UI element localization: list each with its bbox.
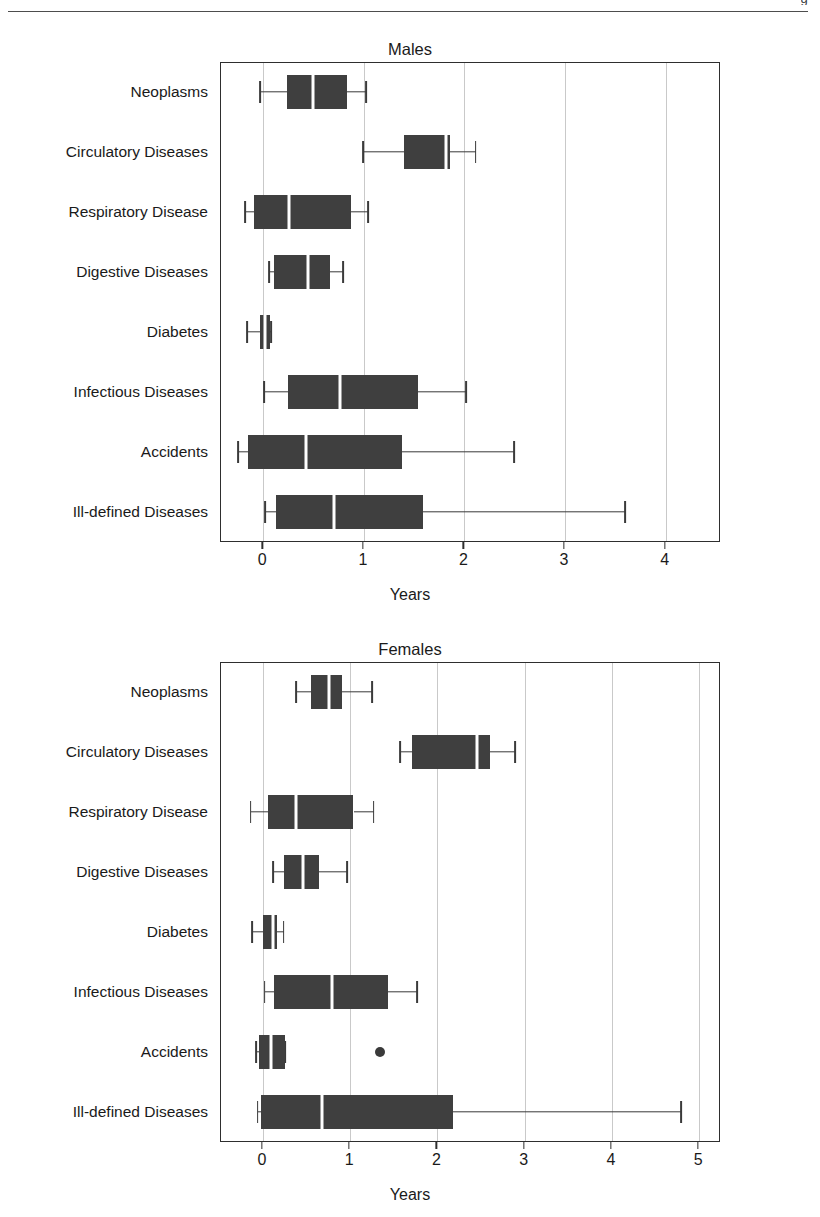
whisker-cap-high — [283, 921, 285, 943]
gridline-x-0 — [263, 663, 264, 1141]
median-line — [301, 855, 304, 889]
median-line — [476, 735, 479, 769]
whisker-line-high — [319, 871, 348, 872]
category-label: Circulatory Diseases — [66, 743, 208, 761]
x-tick-label: 0 — [257, 1151, 266, 1169]
box-iqr — [261, 1095, 453, 1129]
chart-panel-females: Females NeoplasmsCirculatory DiseasesRes… — [0, 0, 820, 1217]
x-tick-mark — [610, 1142, 611, 1149]
median-line — [328, 675, 331, 709]
x-tick-mark — [348, 1142, 349, 1149]
x-axis-title: Years — [0, 1186, 820, 1204]
x-tick-mark — [523, 1142, 524, 1149]
whisker-cap-low — [264, 981, 266, 1003]
figure-page: g Males NeoplasmsCirculatory DiseasesRes… — [0, 0, 820, 1217]
median-line — [272, 915, 275, 949]
chart-title-females: Females — [0, 640, 820, 659]
x-tick-mark — [261, 1142, 262, 1149]
whisker-line-low — [296, 691, 311, 692]
median-line — [330, 975, 333, 1009]
category-label: Respiratory Disease — [68, 803, 208, 821]
category-label: Digestive Diseases — [76, 863, 208, 881]
median-line — [269, 1035, 272, 1069]
x-tick-label: 4 — [606, 1151, 615, 1169]
box-iqr — [268, 795, 354, 829]
x-tick-label: 2 — [432, 1151, 441, 1169]
category-label: Accidents — [141, 1043, 208, 1061]
whisker-line-high — [342, 691, 372, 692]
whisker-line-low — [400, 751, 412, 752]
gridline-x-4 — [612, 663, 613, 1141]
x-tick-label: 5 — [694, 1151, 703, 1169]
whisker-cap-high — [346, 861, 348, 883]
whisker-line-low — [252, 931, 262, 932]
whisker-cap-low — [255, 1041, 257, 1063]
category-label: Ill-defined Diseases — [73, 1103, 208, 1121]
x-tick-mark — [436, 1142, 437, 1149]
whisker-cap-low — [250, 801, 252, 823]
gridline-x-3 — [525, 663, 526, 1141]
whisker-line-high — [354, 811, 374, 812]
x-tick-mark — [698, 1142, 699, 1149]
plot-area-females — [220, 662, 720, 1142]
whisker-cap-low — [251, 921, 253, 943]
category-label: Infectious Diseases — [74, 983, 208, 1001]
whisker-cap-low — [272, 861, 274, 883]
whisker-line-low — [273, 871, 283, 872]
whisker-cap-low — [399, 741, 401, 763]
whisker-cap-high — [373, 801, 375, 823]
x-tick-label: 3 — [519, 1151, 528, 1169]
outlier-point — [375, 1047, 385, 1057]
whisker-line-low — [265, 991, 275, 992]
whisker-line-high — [490, 751, 515, 752]
whisker-line-high — [453, 1111, 681, 1112]
median-line — [294, 795, 297, 829]
whisker-cap-high — [514, 741, 516, 763]
category-label: Diabetes — [147, 923, 208, 941]
whisker-cap-high — [371, 681, 373, 703]
gridline-x-1 — [350, 663, 351, 1141]
median-line — [321, 1095, 324, 1129]
gridline-x-5 — [699, 663, 700, 1141]
box-iqr — [259, 1035, 285, 1069]
whisker-cap-low — [295, 681, 297, 703]
whisker-line-high — [388, 991, 417, 992]
box-iqr — [311, 675, 342, 709]
whisker-line-low — [251, 811, 268, 812]
whisker-cap-high — [416, 981, 418, 1003]
whisker-cap-high — [680, 1101, 682, 1123]
category-label: Neoplasms — [130, 683, 208, 701]
whisker-cap-low — [257, 1101, 259, 1123]
x-tick-label: 1 — [345, 1151, 354, 1169]
